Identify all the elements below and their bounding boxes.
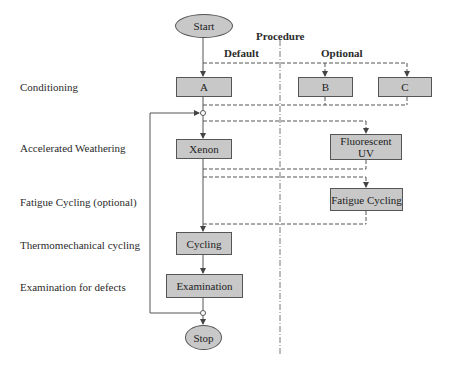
stop-node: Stop xyxy=(185,325,222,350)
row-label-fatigue-cycling: Fatigue Cycling (optional) xyxy=(20,196,137,208)
procedure-header: Procedure xyxy=(256,30,304,42)
node-a: A xyxy=(176,77,232,97)
node-xenon: Xenon xyxy=(176,139,232,159)
row-label-thermomechanical-cycling: Thermomechanical cycling xyxy=(20,239,140,251)
optional-column-header: Optional xyxy=(321,47,363,59)
default-column-header: Default xyxy=(224,47,259,59)
node-fluorescent-uv: Fluorescent UV xyxy=(330,134,402,160)
node-examination-label: Examination xyxy=(176,280,232,292)
stop-label: Stop xyxy=(193,332,213,344)
node-xenon-label: Xenon xyxy=(189,143,218,155)
row-label-accelerated-weathering: Accelerated Weathering xyxy=(20,142,126,154)
row-label-conditioning: Conditioning xyxy=(20,81,78,93)
node-examination: Examination xyxy=(166,274,243,298)
row-label-examination: Examination for defects xyxy=(20,281,126,293)
node-c-label: C xyxy=(401,81,408,93)
node-cycling: Cycling xyxy=(176,232,232,255)
node-fluorescent-uv-line1: Fluorescent xyxy=(340,135,391,147)
node-c: C xyxy=(378,77,432,97)
node-fatigue-cycling: Fatigue Cycling xyxy=(330,188,403,211)
node-b: B xyxy=(298,77,353,97)
start-label: Start xyxy=(194,20,215,32)
node-fluorescent-uv-line2: UV xyxy=(358,147,374,159)
node-cycling-label: Cycling xyxy=(187,238,222,250)
node-a-label: A xyxy=(200,81,208,93)
start-node: Start xyxy=(175,14,233,38)
node-b-label: B xyxy=(322,81,329,93)
node-fatigue-cycling-label: Fatigue Cycling xyxy=(331,194,402,206)
